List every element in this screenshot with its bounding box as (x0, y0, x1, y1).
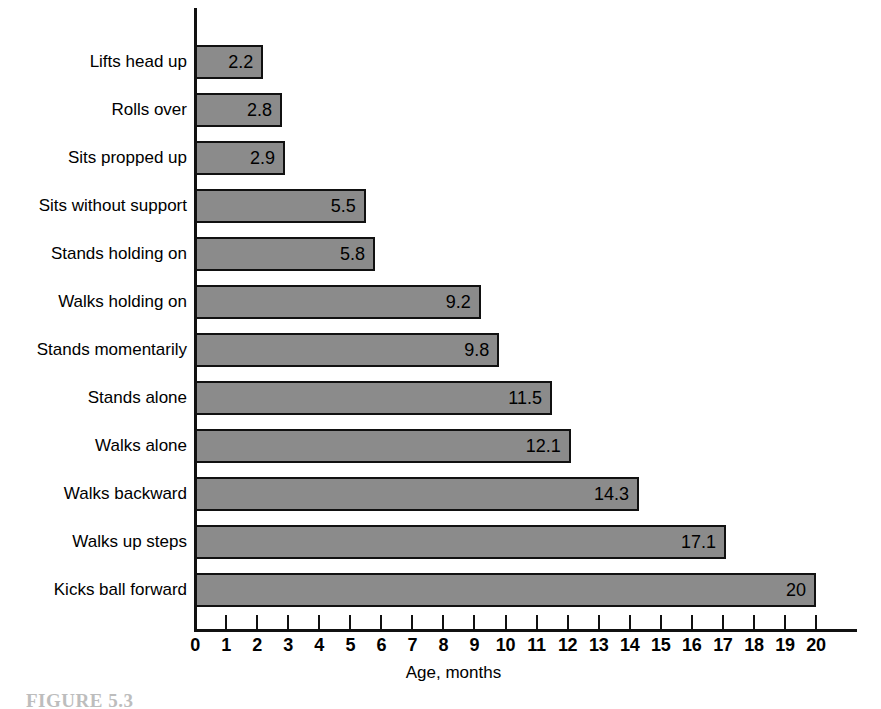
bar: 17.1 (195, 525, 726, 559)
bar-row: Walks up steps17.1 (0, 525, 881, 559)
x-axis-tick (784, 615, 786, 630)
bar-value-label: 2.8 (247, 95, 272, 125)
x-axis-tick (536, 615, 538, 630)
x-axis-tick (256, 615, 258, 630)
x-axis-tick-label: 8 (439, 634, 449, 656)
x-axis-tick (691, 615, 693, 630)
x-axis-tick (505, 615, 507, 630)
x-axis-tick-label: 17 (713, 634, 732, 656)
x-axis-tick (815, 615, 817, 630)
x-axis-tick-label: 0 (190, 634, 200, 656)
bar-value-label: 9.8 (464, 335, 489, 365)
x-axis-tick (225, 615, 227, 630)
bar-category-label: Walks holding on (58, 285, 194, 319)
bar-row: Stands alone11.5 (0, 381, 881, 415)
x-axis-tick (629, 615, 631, 630)
bar-category-label: Walks alone (95, 429, 194, 463)
bar-row: Walks holding on9.2 (0, 285, 881, 319)
x-axis-tick-label: 9 (470, 634, 480, 656)
x-axis-ticks (0, 615, 881, 631)
bar-category-label: Sits propped up (68, 141, 194, 175)
bar: 2.2 (195, 45, 263, 79)
x-axis-tick (753, 615, 755, 630)
bar-category-label: Sits without support (39, 189, 194, 223)
x-axis-tick-label: 7 (407, 634, 417, 656)
bar-value-label: 12.1 (526, 431, 561, 461)
bar-value-label: 5.5 (331, 191, 356, 221)
x-axis-tick (567, 615, 569, 630)
bar-row: Sits without support5.5 (0, 189, 881, 223)
x-axis-tick (287, 615, 289, 630)
bar-category-label: Walks up steps (72, 525, 194, 559)
x-axis-tick-label: 18 (744, 634, 763, 656)
bar: 5.8 (195, 237, 375, 271)
bar-value-label: 20 (786, 575, 806, 605)
bar-row: Lifts head up2.2 (0, 45, 881, 79)
bar-category-label: Stands momentarily (37, 333, 194, 367)
bars-container: Lifts head up2.2Rolls over2.8Sits proppe… (0, 0, 881, 631)
bar-value-label: 11.5 (508, 383, 542, 413)
bar-value-label: 2.9 (250, 143, 275, 173)
bar-value-label: 2.2 (228, 47, 253, 77)
x-axis-tick (349, 615, 351, 630)
bar: 2.8 (195, 93, 282, 127)
x-axis-tick (722, 615, 724, 630)
bar: 9.8 (195, 333, 499, 367)
bar-category-label: Rolls over (111, 93, 194, 127)
bar-chart-figure: Lifts head up2.2Rolls over2.8Sits proppe… (0, 0, 881, 709)
x-axis-tick-label: 6 (376, 634, 386, 656)
x-axis-tick (194, 615, 196, 630)
bar-category-label: Walks backward (64, 477, 194, 511)
bar-row: Kicks ball forward20 (0, 573, 881, 607)
bar: 20 (195, 573, 816, 607)
x-axis-tick (380, 615, 382, 630)
bar-category-label: Lifts head up (90, 45, 194, 79)
bar: 14.3 (195, 477, 639, 511)
bar: 11.5 (195, 381, 552, 415)
x-axis-tick (442, 615, 444, 630)
x-axis-tick-label: 19 (775, 634, 794, 656)
x-axis-tick-label: 16 (682, 634, 701, 656)
x-axis-tick-label: 13 (589, 634, 608, 656)
bar-value-label: 9.2 (446, 287, 471, 317)
bar: 5.5 (195, 189, 366, 223)
figure-caption: FIGURE 5.3 (26, 690, 133, 709)
x-axis-tick-label: 2 (252, 634, 262, 656)
x-axis-tick-label: 3 (283, 634, 293, 656)
bar-value-label: 5.8 (340, 239, 365, 269)
bar-row: Walks alone12.1 (0, 429, 881, 463)
x-axis-tick-label: 10 (496, 634, 515, 656)
bar-category-label: Stands alone (88, 381, 194, 415)
bar-row: Stands momentarily9.8 (0, 333, 881, 367)
bar-category-label: Kicks ball forward (54, 573, 194, 607)
x-axis-tick-label: 15 (651, 634, 670, 656)
y-axis-line (194, 8, 197, 631)
x-axis-tick-label: 5 (345, 634, 355, 656)
x-axis-tick-labels: 01234567891011121314151617181920 (0, 634, 881, 656)
x-axis-tick-label: 11 (527, 634, 545, 656)
bar: 12.1 (195, 429, 571, 463)
x-axis-tick (660, 615, 662, 630)
x-axis-tick (411, 615, 413, 630)
x-axis-tick-label: 12 (558, 634, 577, 656)
bar-value-label: 17.1 (681, 527, 716, 557)
x-axis-tick (598, 615, 600, 630)
bar-row: Sits propped up2.9 (0, 141, 881, 175)
x-axis-tick (318, 615, 320, 630)
x-axis-tick-label: 4 (314, 634, 324, 656)
x-axis-tick-label: 14 (620, 634, 639, 656)
x-axis-title: Age, months (0, 662, 881, 684)
x-axis-tick-label: 20 (806, 634, 825, 656)
bar: 2.9 (195, 141, 285, 175)
bar-value-label: 14.3 (594, 479, 629, 509)
bar-row: Rolls over2.8 (0, 93, 881, 127)
bar-row: Stands holding on5.8 (0, 237, 881, 271)
x-axis-tick-label: 1 (221, 634, 231, 656)
x-axis-tick (473, 615, 475, 630)
bar-category-label: Stands holding on (51, 237, 194, 271)
bar: 9.2 (195, 285, 481, 319)
bar-row: Walks backward14.3 (0, 477, 881, 511)
